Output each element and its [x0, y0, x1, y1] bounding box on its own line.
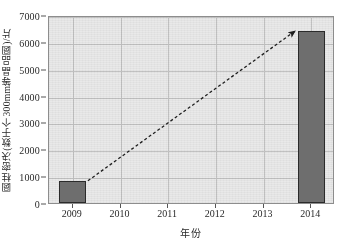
- x-tick-mark: [120, 204, 121, 208]
- y-tick-label: 6000: [19, 37, 40, 48]
- y-tick-mark: [41, 16, 46, 17]
- x-tick-mark: [310, 204, 311, 208]
- x-tick-mark: [72, 204, 73, 208]
- y-tick-mark: [41, 123, 46, 124]
- y-tick-mark: [41, 69, 46, 70]
- y-tick-mark: [41, 177, 46, 178]
- plot-area: [48, 16, 334, 204]
- y-tick-label: 2000: [19, 145, 40, 156]
- x-tick-mark: [263, 204, 264, 208]
- y-tick-label: 0: [35, 199, 40, 210]
- x-tick-mark: [167, 204, 168, 208]
- bar-chart: 圆柱密决(数于个300mm等晶品圆)/片 0100020003000400050…: [0, 0, 362, 251]
- y-tick-label: 7000: [19, 11, 40, 22]
- y-tick-mark: [41, 42, 46, 43]
- x-tick-mark: [215, 204, 216, 208]
- y-axis-ticks: 01000200030004000500060007000: [0, 16, 46, 204]
- x-tick-label-2011: 2011: [157, 208, 177, 219]
- bar-2014: [298, 31, 325, 203]
- y-tick-label: 1000: [19, 172, 40, 183]
- trend-arrow-annotation: [49, 17, 333, 204]
- y-tick-label: 5000: [19, 64, 40, 75]
- x-tick-label-2009: 2009: [62, 208, 82, 219]
- y-tick-mark: [41, 204, 46, 205]
- x-tick-label-2012: 2012: [205, 208, 225, 219]
- y-tick-mark: [41, 96, 46, 97]
- y-tick-label: 4000: [19, 91, 40, 102]
- x-tick-label-2010: 2010: [110, 208, 130, 219]
- x-axis-ticks: 200920102011201220132014: [48, 205, 334, 221]
- x-axis-title: 年份: [48, 225, 334, 240]
- x-tick-label-2014: 2014: [300, 208, 320, 219]
- x-tick-label-2013: 2013: [253, 208, 273, 219]
- bar-2009: [59, 181, 86, 203]
- y-tick-label: 3000: [19, 118, 40, 129]
- y-tick-mark: [41, 150, 46, 151]
